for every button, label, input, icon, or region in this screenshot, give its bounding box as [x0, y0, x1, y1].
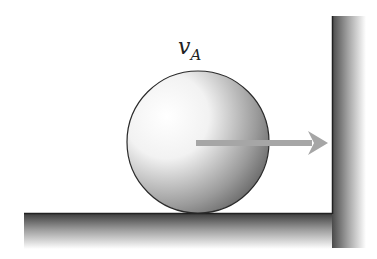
wall [332, 16, 366, 248]
diagram-canvas: vA [0, 0, 377, 259]
floor [24, 213, 334, 249]
velocity-label: vA [178, 34, 201, 64]
